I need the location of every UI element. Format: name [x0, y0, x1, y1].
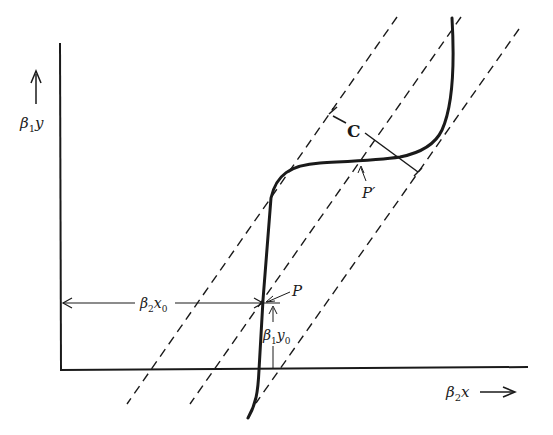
x0-label: β2x0 — [139, 295, 168, 314]
p-label: P — [291, 282, 303, 300]
y-axis-arrow-icon — [31, 71, 41, 104]
y0-label: β1y0 — [262, 327, 291, 346]
dashed-line-middle — [190, 17, 461, 404]
p-prime-label: P′ — [361, 184, 376, 202]
characteristic-curve — [248, 18, 453, 418]
x-axis — [61, 367, 528, 370]
distance-c-marker — [329, 107, 422, 176]
dashed-line-left — [127, 17, 397, 404]
diagram-canvas: β1y β2x C P′ β2x0 P — [0, 0, 553, 435]
p-prime-pointer — [361, 168, 366, 181]
y-axis — [60, 43, 61, 371]
dashed-line-right — [256, 29, 519, 403]
p-pointer — [267, 292, 290, 302]
distance-c-label: C — [347, 121, 361, 141]
y-axis-label: β1y — [19, 114, 44, 134]
p-prime-arrow-icon — [358, 166, 364, 173]
x-axis-label: β2x — [445, 383, 470, 403]
x-axis-arrow-icon — [480, 387, 515, 397]
